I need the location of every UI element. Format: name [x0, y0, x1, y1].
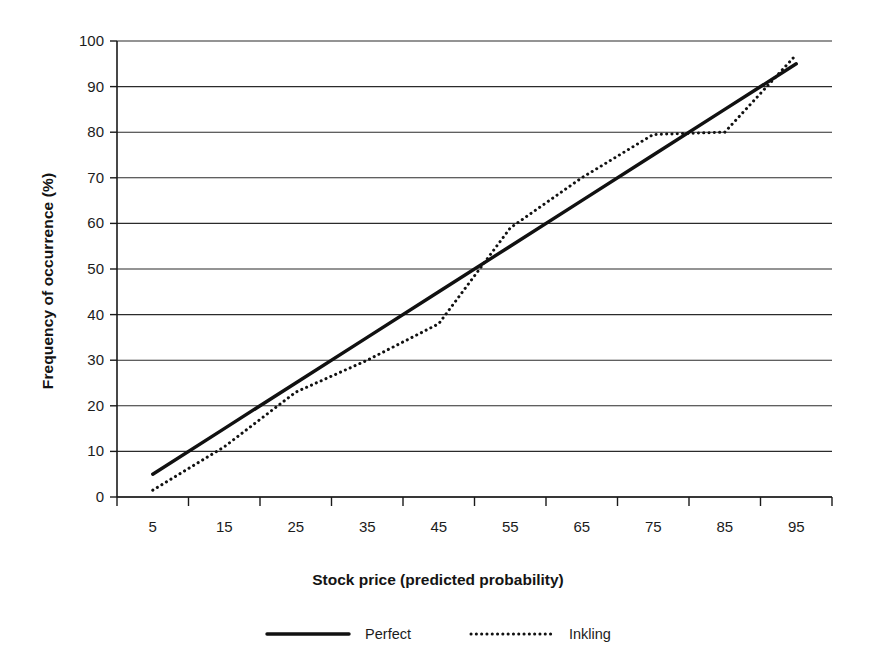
x-tick-label-5: 5 — [123, 519, 183, 534]
legend-key-dotted-icon — [469, 627, 555, 641]
x-tick-label-25: 25 — [266, 519, 326, 534]
y-tick-label-80: 80 — [60, 124, 104, 139]
y-tick-label-40: 40 — [60, 307, 104, 322]
y-tick-label-60: 60 — [60, 215, 104, 230]
legend-label-inkling: Inkling — [569, 626, 611, 642]
legend-key-solid-icon — [265, 627, 351, 641]
y-tick-label-30: 30 — [60, 352, 104, 367]
y-axis-ticks — [110, 41, 117, 497]
x-tick-label-95: 95 — [766, 519, 826, 534]
chart-legend: PerfectInkling — [0, 626, 876, 642]
y-tick-label-70: 70 — [60, 170, 104, 185]
x-tick-label-35: 35 — [337, 519, 397, 534]
series-line-inkling — [153, 55, 797, 490]
x-tick-label-65: 65 — [552, 519, 612, 534]
y-tick-label-90: 90 — [60, 79, 104, 94]
x-tick-label-85: 85 — [695, 519, 755, 534]
x-axis-title: Stock price (predicted probability) — [0, 571, 876, 589]
plot-area — [117, 41, 832, 497]
data-series-layer — [153, 55, 797, 490]
legend-entry-perfect[interactable]: Perfect — [265, 626, 411, 642]
x-tick-label-15: 15 — [194, 519, 254, 534]
y-tick-label-0: 0 — [60, 489, 104, 504]
y-tick-label-100: 100 — [60, 33, 104, 48]
x-tick-label-45: 45 — [409, 519, 469, 534]
plot-svg — [117, 41, 832, 497]
x-tick-label-75: 75 — [623, 519, 683, 534]
y-axis-title: Frequency of occurrence (%) — [39, 121, 57, 441]
legend-entry-inkling[interactable]: Inkling — [469, 626, 611, 642]
y-tick-label-10: 10 — [60, 443, 104, 458]
y-tick-label-20: 20 — [60, 398, 104, 413]
y-tick-label-50: 50 — [60, 261, 104, 276]
calibration-chart-figure: Frequency of occurrence (%) 010203040506… — [0, 0, 876, 669]
legend-label-perfect: Perfect — [365, 626, 411, 642]
x-tick-label-55: 55 — [480, 519, 540, 534]
x-axis-ticks — [117, 497, 832, 506]
